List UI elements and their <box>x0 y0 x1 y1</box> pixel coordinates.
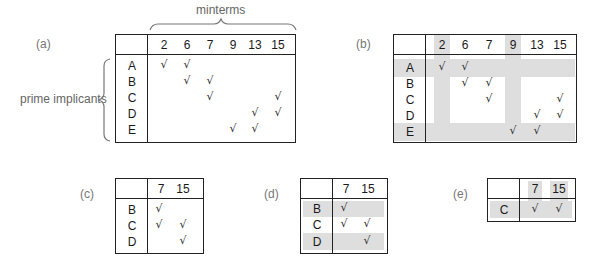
check-mark: √ <box>552 107 568 123</box>
check-mark: √ <box>156 57 172 73</box>
check-mark: √ <box>529 107 545 123</box>
col-header: 15 <box>268 37 288 53</box>
row-label: B <box>402 76 418 92</box>
col-header: 13 <box>527 37 547 53</box>
panel-label-c: (c) <box>80 187 94 201</box>
table-e: 7 15 C √ √ <box>487 178 576 222</box>
row-label: A <box>124 58 140 74</box>
col-header: 13 <box>245 37 265 53</box>
row-label: D <box>124 106 140 122</box>
col-header: 6 <box>457 37 473 53</box>
check-mark: √ <box>434 59 450 75</box>
col-header: 6 <box>179 37 195 53</box>
check-mark: √ <box>529 123 545 139</box>
check-mark: √ <box>179 57 195 73</box>
table-a: 2 6 7 9 13 15 A B C D E √ √ √ √ √ √ √ √ … <box>115 34 296 143</box>
check-mark: √ <box>552 91 568 107</box>
check-mark: √ <box>551 201 567 217</box>
col-header: 7 <box>338 181 354 197</box>
row-label: C <box>309 217 325 233</box>
col-header: 2 <box>156 37 172 53</box>
row-label: B <box>124 74 140 90</box>
panel-label-d: (d) <box>264 187 279 201</box>
check-mark: √ <box>179 73 195 89</box>
check-mark: √ <box>151 217 167 233</box>
col-header: 2 <box>434 37 450 53</box>
row-label: E <box>124 122 140 138</box>
panel-label-e: (e) <box>453 187 468 201</box>
check-mark: √ <box>175 233 191 249</box>
prime-implicants-brace <box>0 0 130 150</box>
table-d: 7 15 B C D √ √ √ √ <box>300 178 388 254</box>
check-mark: √ <box>359 233 375 249</box>
check-mark: √ <box>247 105 263 121</box>
panel-label-a: (a) <box>36 37 51 51</box>
check-mark: √ <box>202 89 218 105</box>
check-mark: √ <box>202 73 218 89</box>
col-header: 9 <box>225 37 241 53</box>
check-mark: √ <box>247 121 263 137</box>
check-mark: √ <box>270 89 286 105</box>
row-label: C <box>496 202 512 218</box>
col-header: 15 <box>358 181 378 197</box>
check-mark: √ <box>270 105 286 121</box>
row-label: E <box>402 124 418 140</box>
check-mark: √ <box>481 75 497 91</box>
col-header: 7 <box>527 181 543 197</box>
check-mark: √ <box>457 75 473 91</box>
row-label: D <box>124 234 140 250</box>
row-label: B <box>124 202 140 218</box>
col-header: 9 <box>505 37 521 53</box>
check-mark: √ <box>151 201 167 217</box>
table-b: 2 6 7 9 13 15 A B C D E √ √ √ √ √ √ √ √ … <box>393 34 577 143</box>
col-header: 15 <box>550 37 570 53</box>
row-label: C <box>124 218 140 234</box>
row-label: D <box>309 234 325 250</box>
check-mark: √ <box>481 91 497 107</box>
col-header: 7 <box>202 37 218 53</box>
check-mark: √ <box>175 217 191 233</box>
row-label: B <box>309 201 325 217</box>
check-mark: √ <box>336 216 352 232</box>
check-mark: √ <box>527 201 543 217</box>
col-header: 15 <box>549 181 569 197</box>
check-mark: √ <box>336 200 352 216</box>
check-mark: √ <box>505 123 521 139</box>
col-header: 15 <box>173 181 193 197</box>
check-mark: √ <box>225 121 241 137</box>
row-label: A <box>402 60 418 76</box>
col-header: 7 <box>481 37 497 53</box>
panel-label-b: (b) <box>356 37 371 51</box>
table-c: 7 15 B C D √ √ √ √ <box>115 178 204 254</box>
col-header: 7 <box>153 181 169 197</box>
row-label: C <box>124 90 140 106</box>
row-label: D <box>402 108 418 124</box>
check-mark: √ <box>359 216 375 232</box>
shaded-row-e <box>394 123 575 141</box>
row-label: C <box>402 92 418 108</box>
check-mark: √ <box>457 59 473 75</box>
